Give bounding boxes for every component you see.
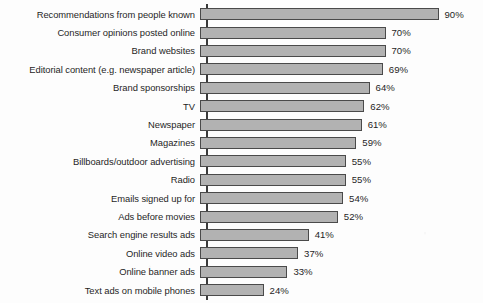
category-label: Emails signed up for [0, 193, 200, 204]
bar-row: Billboards/outdoor advertising55% [0, 152, 483, 170]
category-label: Online video ads [0, 248, 200, 259]
bar-track: 90% [200, 5, 483, 23]
bar [200, 229, 309, 241]
bar-track: 37% [200, 244, 483, 262]
bar-row: Emails signed up for54% [0, 189, 483, 207]
bar [200, 63, 383, 75]
bar-value-label: 69% [389, 64, 408, 75]
bar [200, 155, 346, 167]
bar-value-label: 61% [368, 119, 387, 130]
category-label: TV [0, 101, 200, 112]
bar-track: 70% [200, 42, 483, 60]
category-label: Ads before movies [0, 211, 200, 222]
bar [200, 45, 386, 57]
category-label: Recommendations from people known [0, 9, 200, 20]
bar-row: TV62% [0, 97, 483, 115]
bar-track: 54% [200, 189, 483, 207]
bar-row: Recommendations from people known90% [0, 5, 483, 23]
bar-value-label: 24% [270, 285, 289, 296]
bar [200, 266, 287, 278]
bar [200, 8, 439, 20]
bar [200, 211, 338, 223]
bar-row: Ads before movies52% [0, 207, 483, 225]
category-label: Magazines [0, 137, 200, 148]
category-label: Online banner ads [0, 266, 200, 277]
bar-row: Editorial content (e.g. newspaper articl… [0, 60, 483, 78]
category-label: Brand sponsorships [0, 82, 200, 93]
bar-value-label: 37% [304, 248, 323, 259]
bar-value-label: 41% [315, 229, 334, 240]
bar-value-label: 33% [293, 266, 312, 277]
bar-row: Radio55% [0, 171, 483, 189]
bar-track: 24% [200, 281, 483, 299]
bar-track: 55% [200, 171, 483, 189]
bar-track: 69% [200, 60, 483, 78]
category-label: Text ads on mobile phones [0, 285, 200, 296]
bar-row: Brand websites70% [0, 42, 483, 60]
bar-row: Search engine results ads41% [0, 226, 483, 244]
category-label: Search engine results ads [0, 229, 200, 240]
bar-value-label: 54% [349, 193, 368, 204]
bar-track: 64% [200, 79, 483, 97]
category-label: Consumer opinions posted online [0, 27, 200, 38]
bar-row: Magazines59% [0, 134, 483, 152]
category-label: Radio [0, 174, 200, 185]
bar-row: Text ads on mobile phones24% [0, 281, 483, 299]
bar-track: 59% [200, 134, 483, 152]
bar-row: Brand sponsorships64% [0, 79, 483, 97]
bar-track: 61% [200, 115, 483, 133]
bar-value-label: 52% [344, 211, 363, 222]
category-label: Editorial content (e.g. newspaper articl… [0, 64, 200, 75]
bar-track: 52% [200, 207, 483, 225]
bar-value-label: 62% [370, 101, 389, 112]
bar [200, 137, 356, 149]
bar-track: 41% [200, 226, 483, 244]
bar-row: Newspaper61% [0, 115, 483, 133]
bar [200, 119, 362, 131]
bar [200, 82, 370, 94]
bar-value-label: 59% [362, 137, 381, 148]
bar-value-label: 70% [392, 45, 411, 56]
bar-value-label: 64% [376, 82, 395, 93]
bar-track: 55% [200, 152, 483, 170]
bar-track: 70% [200, 23, 483, 41]
bar [200, 247, 298, 259]
horizontal-bar-chart: Recommendations from people known90%Cons… [0, 0, 483, 303]
bar-value-label: 55% [352, 156, 371, 167]
bar-value-label: 55% [352, 174, 371, 185]
category-label: Newspaper [0, 119, 200, 130]
bar-row: Online banner ads33% [0, 263, 483, 281]
bar-track: 62% [200, 97, 483, 115]
bar-row: Online video ads37% [0, 244, 483, 262]
bar-value-label: 90% [445, 9, 464, 20]
bar-value-label: 70% [392, 27, 411, 38]
bar-track: 33% [200, 263, 483, 281]
bar [200, 27, 386, 39]
bar-row: Consumer opinions posted online70% [0, 23, 483, 41]
bar [200, 100, 364, 112]
bar [200, 192, 343, 204]
category-label: Billboards/outdoor advertising [0, 156, 200, 167]
category-label: Brand websites [0, 45, 200, 56]
bar [200, 174, 346, 186]
bar [200, 284, 264, 296]
